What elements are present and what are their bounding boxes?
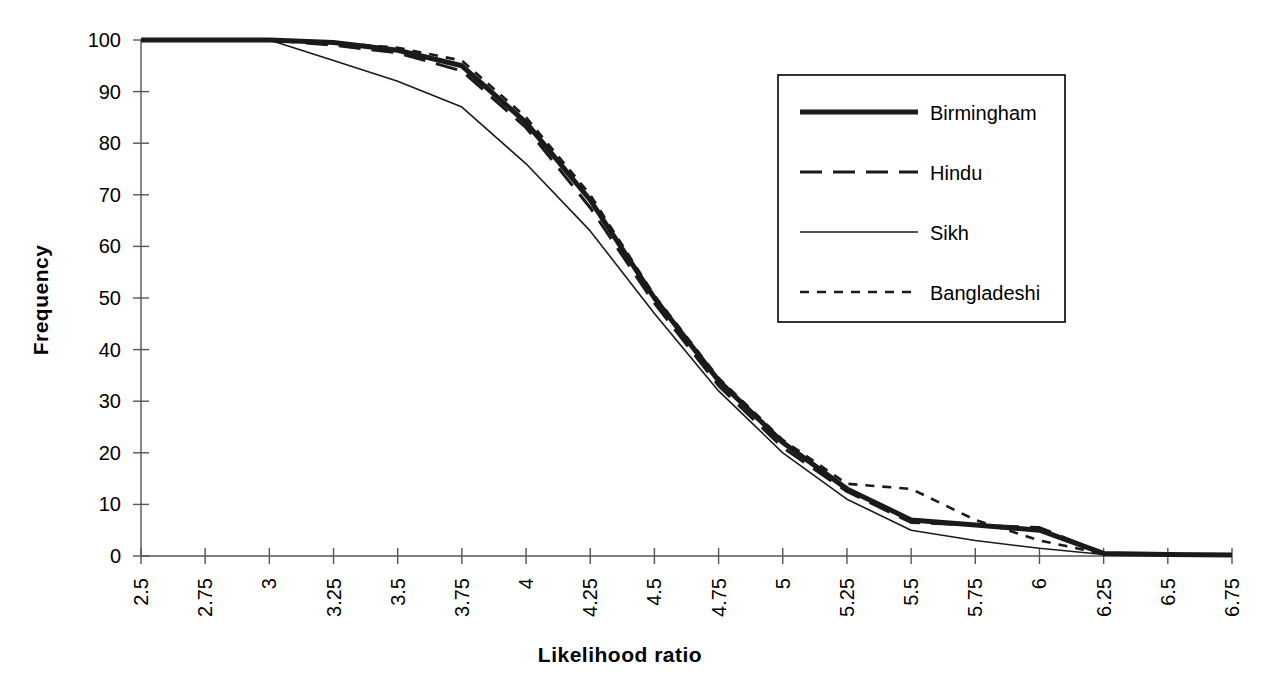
x-tick-label: 6.75 bbox=[1221, 578, 1243, 617]
x-tick-label: 4.75 bbox=[708, 578, 730, 617]
x-tick-label: 6.5 bbox=[1157, 578, 1179, 606]
x-tick-label: 5.5 bbox=[900, 578, 922, 606]
x-tick-label: 3.75 bbox=[451, 578, 473, 617]
x-tick-label: 5.25 bbox=[836, 578, 858, 617]
y-tick-label: 50 bbox=[99, 287, 121, 309]
x-tick-label: 4 bbox=[515, 578, 537, 589]
y-tick-label: 20 bbox=[99, 442, 121, 464]
series-line-hindu bbox=[141, 40, 1232, 555]
x-tick-label: 6.25 bbox=[1093, 578, 1115, 617]
x-tick-label: 5.75 bbox=[964, 578, 986, 617]
y-tick-label: 30 bbox=[99, 390, 121, 412]
x-tick-label: 3.5 bbox=[387, 578, 409, 606]
x-tick-label: 3.25 bbox=[323, 578, 345, 617]
legend: BirminghamHinduSikhBangladeshi bbox=[778, 75, 1065, 322]
y-tick-label: 90 bbox=[99, 81, 121, 103]
legend-label-sikh: Sikh bbox=[930, 222, 969, 244]
legend-label-bangladeshi: Bangladeshi bbox=[930, 282, 1040, 304]
series-line-birmingham bbox=[141, 40, 1232, 555]
x-tick-label: 3 bbox=[258, 578, 280, 589]
y-tick-label: 40 bbox=[99, 339, 121, 361]
x-tick-label: 4.5 bbox=[643, 578, 665, 606]
legend-label-hindu: Hindu bbox=[930, 162, 982, 184]
series-line-sikh bbox=[141, 40, 1232, 555]
x-tick-label: 2.5 bbox=[130, 578, 152, 606]
y-tick-label: 0 bbox=[110, 545, 121, 567]
line-chart: 01020304050607080901002.52.7533.253.53.7… bbox=[0, 0, 1274, 697]
chart-figure: 01020304050607080901002.52.7533.253.53.7… bbox=[0, 0, 1274, 697]
series-line-bangladeshi bbox=[141, 40, 1232, 555]
legend-label-birmingham: Birmingham bbox=[930, 102, 1037, 124]
x-tick-label: 2.75 bbox=[194, 578, 216, 617]
y-tick-label: 10 bbox=[99, 493, 121, 515]
x-tick-label: 6 bbox=[1028, 578, 1050, 589]
x-tick-label: 4.25 bbox=[579, 578, 601, 617]
y-tick-label: 80 bbox=[99, 132, 121, 154]
x-tick-label: 5 bbox=[772, 578, 794, 589]
y-axis-title: Frequency bbox=[29, 245, 52, 356]
x-axis-title: Likelihood ratio bbox=[538, 643, 702, 666]
y-tick-label: 60 bbox=[99, 235, 121, 257]
y-tick-label: 70 bbox=[99, 184, 121, 206]
y-tick-label: 100 bbox=[88, 29, 121, 51]
